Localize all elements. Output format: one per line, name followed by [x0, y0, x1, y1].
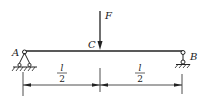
point-c-label: C [88, 39, 96, 50]
support-a-label: A [11, 47, 19, 58]
dimension-label-right: l 2 [135, 63, 145, 84]
force-arrow [98, 11, 103, 50]
svg-text:2: 2 [137, 74, 143, 84]
beam-diagram: F C A B [0, 0, 208, 111]
svg-text:2: 2 [59, 74, 65, 84]
dimension-line [23, 83, 182, 86]
svg-text:l: l [139, 63, 142, 73]
force-label: F [104, 10, 113, 21]
svg-text:l: l [61, 63, 64, 73]
roller-support-b [175, 51, 190, 69]
beam-diagram-svg: F C A B [0, 0, 208, 111]
dimension-label-left: l 2 [57, 63, 67, 84]
support-b-label: B [189, 51, 197, 62]
